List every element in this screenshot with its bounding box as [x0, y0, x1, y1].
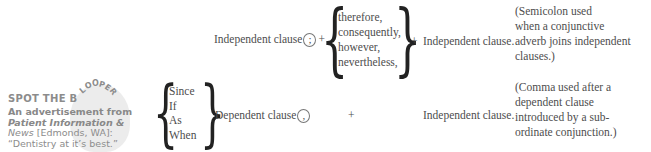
- caption-source: Patient Information &: [8, 117, 124, 128]
- semicolon-circle: ;: [303, 33, 316, 47]
- subordinate-conjunctions-list: Since If As When: [169, 84, 196, 142]
- plus-sign: +: [348, 109, 355, 121]
- rule1-right-clause: Independent clause.: [423, 35, 514, 47]
- caption-source-cont: News: [8, 127, 34, 138]
- adverb-item: therefore,: [338, 10, 401, 25]
- blooper-title: SPOT THE B: [8, 93, 77, 104]
- conjunction-item: If: [169, 99, 196, 114]
- plus-sign: +: [411, 35, 418, 47]
- rule2-note: (Comma used after a dependent clause int…: [515, 80, 617, 140]
- rule1-note: (Semicolon used when a conjunctive adver…: [515, 4, 631, 64]
- adverb-item: however,: [338, 40, 401, 55]
- rule2-left-clause: Dependent clause,: [215, 109, 310, 123]
- rule1-left-clause: Independent clause;+: [214, 33, 325, 47]
- caption-location: [Edmonds, WA]:: [34, 127, 113, 138]
- adverb-item: nevertheless,: [338, 55, 401, 70]
- caption-quote: “Dentistry at it’s best.”: [8, 139, 132, 150]
- conjunction-item: When: [169, 128, 196, 143]
- blooper-caption: An advertisement from Patient Informatio…: [8, 107, 132, 149]
- comma-circle: ,: [297, 109, 310, 123]
- conjunctive-adverbs-list: therefore, consequently, however, nevert…: [338, 10, 401, 70]
- conjunction-item: Since: [169, 84, 196, 99]
- adverb-item: consequently,: [338, 25, 401, 40]
- rule2-right-clause: Independent clause.: [423, 109, 514, 121]
- conjunction-item: As: [169, 113, 196, 128]
- blooper-arc-text: LOOPER: [80, 80, 116, 89]
